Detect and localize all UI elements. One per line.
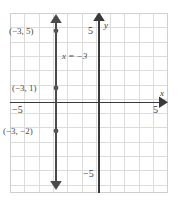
plotted-point — [54, 129, 59, 134]
plotted-point — [54, 86, 59, 91]
equation-label: x = −3 — [62, 52, 87, 61]
point-label-0: (−3, 5) — [9, 27, 34, 36]
x-tick-label-five: 5 — [153, 105, 158, 115]
y-tick-label-five: 5 — [88, 26, 93, 36]
coordinate-plane-figure: (−3, 5) (−3, 1) (−3, −2) x = −3 y x −5 5… — [0, 0, 195, 205]
x-tick-label-negative-five: −5 — [12, 105, 23, 115]
x-axis-arrowhead — [159, 97, 168, 109]
point-label-2: (−3, −2) — [3, 127, 33, 136]
graphed-line-arrowhead-top — [50, 14, 62, 23]
point-label-1: (−3, 1) — [12, 84, 37, 93]
y-tick-label-negative-five: −5 — [83, 169, 94, 179]
plotted-point — [54, 28, 59, 33]
y-axis-label: y — [104, 21, 108, 30]
plot-area: (−3, 5) (−3, 1) (−3, −2) x = −3 y x −5 5… — [10, 13, 168, 193]
graph-canvas — [10, 13, 168, 193]
x-axis-label: x — [160, 89, 164, 98]
